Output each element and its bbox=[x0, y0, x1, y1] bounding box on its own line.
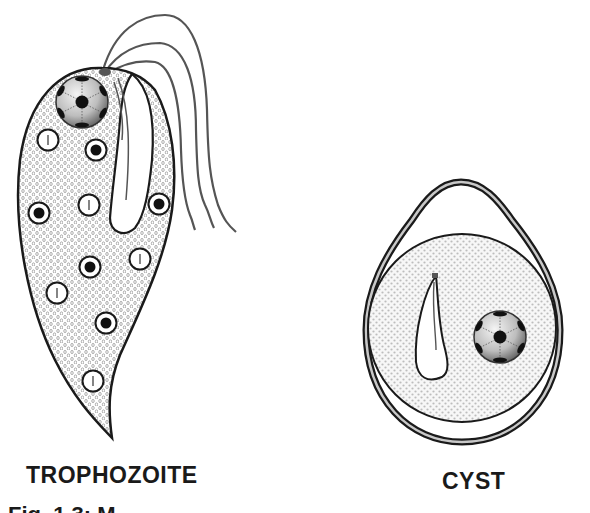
basal-body bbox=[99, 68, 111, 76]
cyst-label: CYST bbox=[442, 468, 505, 495]
trophozoite bbox=[18, 15, 236, 438]
figure-caption: Fig. 1.3: M bbox=[8, 502, 116, 513]
trophozoite-label: TROPHOZOITE bbox=[26, 462, 198, 489]
giardia-diagram bbox=[0, 0, 590, 513]
cyst bbox=[366, 182, 560, 442]
cyst-nucleus bbox=[474, 311, 527, 363]
cyst-body bbox=[368, 234, 556, 422]
trophozoite-nucleus bbox=[56, 76, 109, 128]
